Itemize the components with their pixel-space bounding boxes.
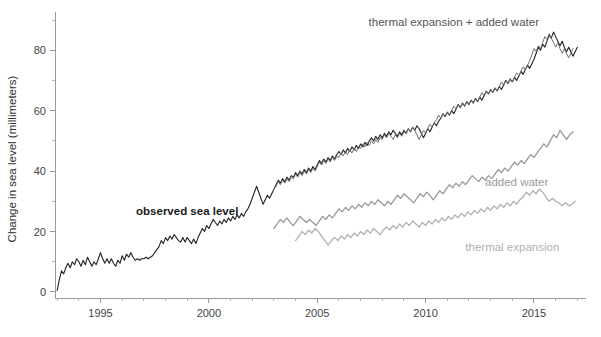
annotation-thermal-expansion: thermal expansion [465, 241, 559, 253]
y-tick-label-0: 0 [40, 286, 46, 298]
y-tick-label-80: 80 [34, 44, 46, 56]
series-line-thermal-expansion-added-water [274, 34, 573, 190]
y-tick-label-40: 40 [34, 165, 46, 177]
annotation-thermal-expansion-plus-added-water: thermal expansion + added water [369, 16, 540, 28]
axes-group [55, 12, 586, 298]
x-axis-ticks: 19952000200520102015 [57, 298, 577, 319]
sea-level-chart: 020406080 19952000200520102015 observed … [0, 0, 601, 337]
annotation-observed-sea-level: observed sea level [136, 205, 238, 217]
y-axis-ticks: 020406080 [34, 20, 55, 298]
y-axis-title: Change in sea level (millimeters) [6, 75, 18, 242]
x-tick-label-2015: 2015 [522, 307, 546, 319]
y-tick-label-60: 60 [34, 105, 46, 117]
x-tick-label-1995: 1995 [88, 307, 112, 319]
annotations-group: observed sea levelthermal expansion + ad… [136, 16, 559, 253]
y-tick-label-20: 20 [34, 226, 46, 238]
x-tick-label-2010: 2010 [413, 307, 437, 319]
x-tick-label-2000: 2000 [197, 307, 221, 319]
chart-svg: 020406080 19952000200520102015 observed … [0, 0, 601, 337]
annotation-added-water: added water [485, 176, 548, 188]
x-tick-label-2005: 2005 [305, 307, 329, 319]
